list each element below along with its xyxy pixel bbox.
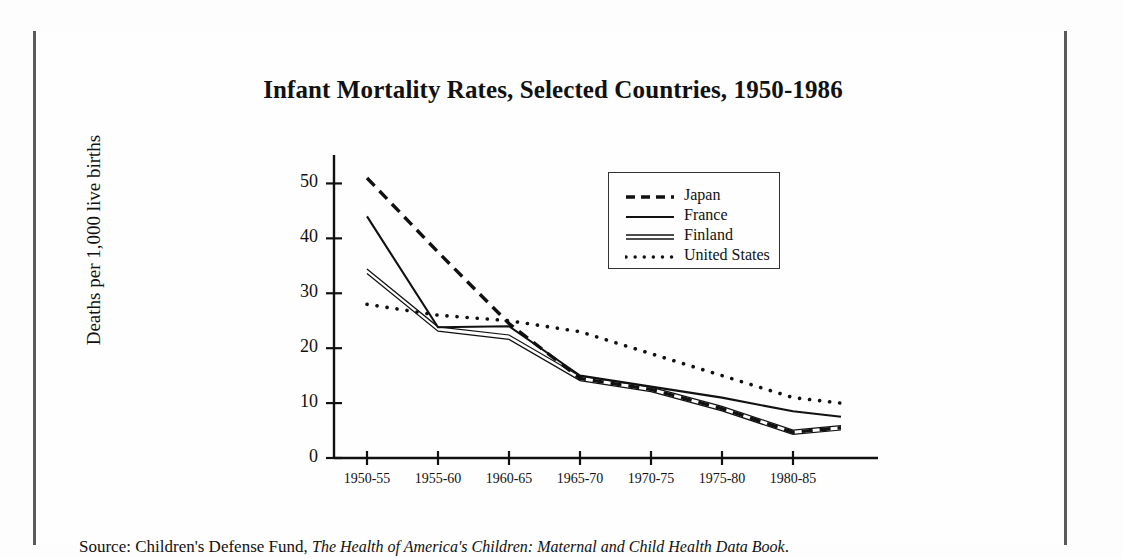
series-line-finland xyxy=(367,274,841,435)
line-chart xyxy=(36,31,1070,545)
y-axis-tick-label: 40 xyxy=(272,226,318,247)
chart-legend: JapanFranceFinlandUnited States xyxy=(608,172,780,269)
figure-frame: Infant Mortality Rates, Selected Countri… xyxy=(33,31,1067,545)
legend-item-finland: Finland xyxy=(625,225,733,245)
legend-swatch-icon xyxy=(625,229,675,241)
y-axis-tick-label: 0 xyxy=(272,446,318,467)
legend-label: Japan xyxy=(684,186,720,204)
legend-swatch-icon xyxy=(625,249,675,261)
chart-plot-area: Deaths per 1,000 live births 01020304050… xyxy=(36,31,1070,545)
legend-swatch-icon xyxy=(625,189,675,201)
source-title: The Health of America's Children: Matern… xyxy=(312,538,785,555)
legend-label: United States xyxy=(684,246,770,264)
chart-axes xyxy=(326,155,878,465)
source-prefix: Source: Children's Defense Fund, xyxy=(79,537,312,556)
legend-label: Finland xyxy=(684,226,733,244)
legend-item-japan: Japan xyxy=(625,185,720,205)
y-axis-tick-label: 30 xyxy=(272,281,318,302)
legend-item-united-states: United States xyxy=(625,245,770,265)
legend-label: France xyxy=(684,206,728,224)
source-note: Source: Children's Defense Fund, The Hea… xyxy=(79,537,789,557)
source-suffix: . xyxy=(785,537,789,556)
y-axis-tick-label: 20 xyxy=(272,336,318,357)
figure-page: Infant Mortality Rates, Selected Countri… xyxy=(0,0,1123,559)
x-axis-tick-label: 1980-85 xyxy=(748,471,838,487)
series-line-united-states xyxy=(367,304,841,403)
legend-item-france: France xyxy=(625,205,728,225)
legend-swatch-icon xyxy=(625,209,675,221)
y-axis-tick-label: 10 xyxy=(272,391,318,412)
y-axis-tick-label: 50 xyxy=(272,171,318,192)
